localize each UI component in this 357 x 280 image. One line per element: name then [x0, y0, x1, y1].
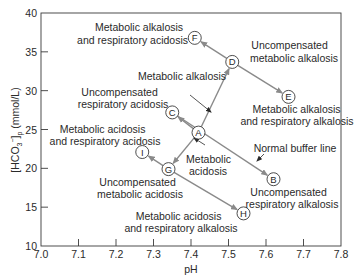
- point-I: I: [136, 146, 149, 159]
- svg-text:B: B: [270, 174, 276, 185]
- y-tick-label: 20: [25, 162, 37, 174]
- annotation-D: Uncompensated metabolic alkalosis: [250, 39, 338, 64]
- y-tick-label: 25: [25, 124, 37, 136]
- x-axis-label: pH: [184, 263, 197, 275]
- x-tick-label: 7.3: [146, 248, 161, 260]
- annotation-C: Uncompensated respiratory acidosis: [78, 86, 168, 110]
- x-tick-label: 7.5: [221, 248, 236, 260]
- x-tick-label: 7.4: [184, 248, 199, 260]
- point-A: A: [192, 126, 205, 139]
- annotation-H: Metabolic acidosis and respiratory alkal…: [124, 210, 237, 234]
- point-G: G: [162, 163, 175, 176]
- x-tick-label: 7.1: [71, 248, 86, 260]
- annotation-metabolic-acidosis: Metabolic acidosis: [186, 153, 234, 177]
- svg-text:E: E: [285, 91, 291, 102]
- y-tick-label: 15: [25, 201, 37, 213]
- arrow-G-to-I: [149, 156, 164, 165]
- svg-text:F: F: [192, 32, 198, 43]
- svg-text:[HCO3−]p (mmol/L): [HCO3−]p (mmol/L): [9, 87, 24, 172]
- svg-text:C: C: [169, 107, 176, 118]
- x-tick-label: 7.8: [334, 248, 349, 260]
- annotation-E: Metabolic alkalosis and respiratory alka…: [240, 103, 353, 127]
- arrow-D-to-F: [201, 42, 227, 59]
- point-D: D: [226, 55, 239, 68]
- metabolic-alkalosis-pointer: [190, 95, 211, 112]
- x-tick-label: 7.0: [34, 248, 49, 260]
- x-tick-label: 7.2: [109, 248, 124, 260]
- svg-text:A: A: [195, 127, 202, 138]
- annotation-I: Metabolic acidosis and respiratory acido…: [50, 123, 161, 147]
- buffer-line-pointer: [257, 154, 264, 161]
- arrow-A-to-C: [178, 117, 193, 129]
- svg-text:I: I: [141, 147, 144, 158]
- point-F: F: [188, 31, 201, 44]
- annotation-buffer-line: Normal buffer line: [254, 142, 337, 154]
- annotation-metabolic-alkalosis: Metabolic alkalosis: [138, 70, 226, 82]
- arrow-D-to-E: [238, 65, 282, 93]
- y-tick-label: 40: [25, 7, 37, 19]
- arrow-G-to-H: [174, 172, 237, 209]
- acid-base-chart: 10152025303540 7.07.17.27.37.47.57.67.77…: [0, 0, 357, 280]
- x-tick-label: 7.6: [259, 248, 274, 260]
- annotation-B: Uncompensated respiratory alkalosis: [246, 186, 339, 210]
- annotation-G: Uncompensated metabolic acidosis: [97, 176, 183, 200]
- svg-text:G: G: [165, 164, 172, 175]
- x-axis: 7.07.17.27.37.47.57.67.77.8: [34, 239, 349, 260]
- annotation-F: Metabolic alkalosis and respiratory acid…: [77, 21, 188, 46]
- y-axis: 10152025303540: [25, 7, 48, 252]
- y-tick-label: 35: [25, 46, 37, 58]
- point-E: E: [282, 90, 295, 103]
- y-axis-label: [HCO3−]p (mmol/L): [9, 87, 24, 172]
- x-tick-label: 7.7: [296, 248, 311, 260]
- svg-text:D: D: [229, 56, 236, 67]
- y-tick-label: 30: [25, 85, 37, 97]
- point-B: B: [267, 173, 280, 186]
